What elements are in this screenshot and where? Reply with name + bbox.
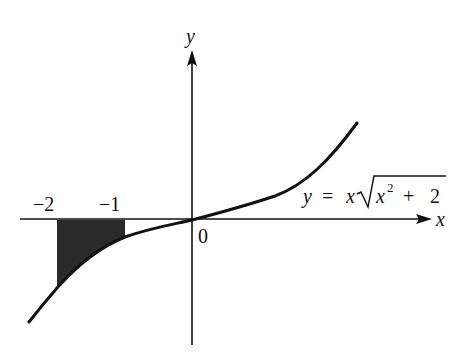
function-label: y = x x 2 + 2 (301, 176, 446, 208)
fn-x2: x (375, 185, 385, 207)
origin-label: 0 (198, 225, 208, 247)
fn-y: y (301, 185, 312, 208)
fn-eq: = (322, 185, 333, 207)
tick-label-neg1: −1 (99, 193, 120, 215)
fn-two: 2 (430, 185, 440, 207)
chart-canvas: y x −2 −1 0 y = x x 2 + 2 (0, 0, 467, 353)
y-axis-label: y (184, 25, 195, 48)
fn-plus: + (403, 185, 414, 207)
x-axis-label: x (435, 208, 445, 230)
fn-x: x (345, 185, 355, 207)
tick-label-neg2: −2 (33, 193, 54, 215)
fn-sup: 2 (387, 180, 394, 195)
